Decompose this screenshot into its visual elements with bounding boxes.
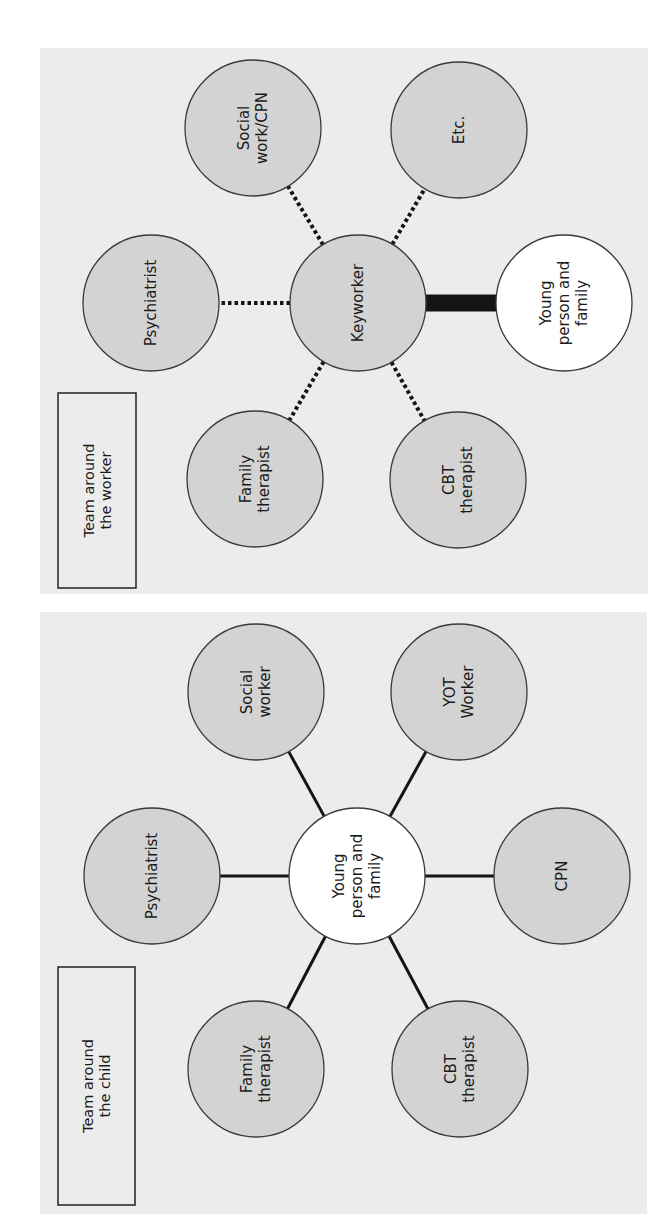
- role-node-label-line: therapist: [255, 445, 273, 512]
- role-node-label: Familytherapist: [237, 445, 273, 512]
- role-node-label-line: worker: [256, 666, 274, 718]
- role-node-label: Familytherapist: [238, 1035, 274, 1102]
- role-node-label-line: family: [573, 280, 591, 326]
- center-node-label: Keyworker: [349, 263, 367, 342]
- role-node-label: Psychiatrist: [142, 260, 160, 347]
- role-node-label: Etc.: [450, 116, 468, 144]
- center-node-label-line: person and: [348, 834, 366, 918]
- role-node-label-line: CBT: [442, 1053, 460, 1084]
- role-node-label-line: Etc.: [450, 116, 468, 144]
- role-node-label-line: work/CPN: [253, 92, 271, 164]
- center-node-label-line: family: [366, 853, 384, 899]
- diagram-canvas: Team aroundthe workerKeyworkerPsychiatri…: [0, 0, 658, 1221]
- panel-title: Team aroundthe worker: [81, 444, 114, 539]
- panel-title-line: Team around: [81, 444, 97, 539]
- role-node-label-line: Social: [235, 106, 253, 150]
- panel-title-line: the child: [97, 1055, 113, 1118]
- role-node-label: Psychiatrist: [143, 833, 161, 920]
- role-node-label-line: therapist: [256, 1035, 274, 1102]
- panel-title-line: the worker: [98, 452, 114, 530]
- center-node-label-line: Keyworker: [349, 263, 367, 342]
- role-node-label-line: Family: [238, 1045, 256, 1093]
- role-node-label-line: therapist: [460, 1035, 478, 1102]
- role-node-label-line: person and: [555, 261, 573, 345]
- role-node-label-line: Social: [238, 670, 256, 714]
- role-node-label-line: Psychiatrist: [142, 260, 160, 347]
- panel-team-around-the-child: Team aroundthe childYoungperson andfamil…: [40, 612, 647, 1214]
- role-node-label-line: CPN: [553, 861, 571, 892]
- role-node-label-line: Worker: [459, 665, 477, 719]
- role-node-label-line: therapist: [458, 446, 476, 513]
- role-node-label-line: Young: [537, 281, 555, 327]
- panel-team-around-the-worker: Team aroundthe workerKeyworkerPsychiatri…: [40, 48, 648, 594]
- role-node-label-line: Psychiatrist: [143, 833, 161, 920]
- role-node-label-line: YOT: [441, 677, 459, 708]
- panel-title-line: Team around: [80, 1039, 96, 1134]
- role-node-label-line: CBT: [440, 464, 458, 495]
- role-node-label-line: Family: [237, 455, 255, 503]
- role-node-label: Socialworker: [238, 666, 274, 718]
- center-node-label-line: Young: [330, 854, 348, 900]
- role-node-label: CPN: [553, 861, 571, 892]
